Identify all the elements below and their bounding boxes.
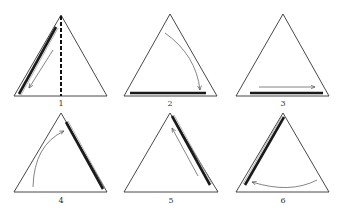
edge-bar-shadow <box>68 121 105 188</box>
panel-3: 3 <box>236 14 329 108</box>
panel-6: 6 <box>236 113 329 205</box>
curved-left-arrow-icon <box>252 180 317 188</box>
panel-2: 2 <box>124 14 217 108</box>
panel-label: 3 <box>280 99 285 108</box>
edge-bar-shadow <box>243 116 282 184</box>
thick-edge-bar <box>19 27 56 94</box>
triangle-sequence-diagram: 1 2 3 4 5 6 <box>0 0 346 214</box>
edge-bar-shadow <box>21 28 58 95</box>
panel-label: 6 <box>280 196 285 205</box>
curved-up-arrow-icon <box>33 131 64 187</box>
panel-label: 2 <box>167 99 172 108</box>
edge-bar-shadow <box>174 115 212 184</box>
thick-edge-bar <box>245 117 284 185</box>
triangle-outline <box>14 113 107 192</box>
thick-edge-bar <box>66 122 103 189</box>
thick-edge-bar <box>172 116 210 185</box>
panel-4: 4 <box>14 113 107 205</box>
panel-label: 4 <box>58 196 63 205</box>
triangle-outline <box>124 113 218 192</box>
panel-label: 1 <box>58 99 63 108</box>
triangle-outline <box>124 14 217 96</box>
panel-label: 5 <box>168 196 173 205</box>
panel-1: 1 <box>14 15 107 108</box>
triangle-outline <box>236 14 329 96</box>
panel-5: 5 <box>124 113 218 205</box>
curved-down-arrow-icon <box>165 33 200 90</box>
triangle-outline <box>236 113 329 192</box>
